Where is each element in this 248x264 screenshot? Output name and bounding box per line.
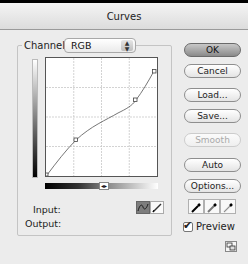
pencil-mode-button[interactable] [150, 201, 164, 214]
smooth-button[interactable]: Smooth [184, 133, 241, 147]
ok-button[interactable]: OK [184, 43, 241, 57]
curve-graph[interactable] [45, 57, 158, 177]
input-label: Input: [33, 204, 61, 215]
output-label: Output: [25, 218, 61, 229]
title-bar[interactable]: Curves [0, 3, 248, 30]
resize-icon [226, 242, 236, 251]
window-title: Curves [0, 11, 248, 22]
eyedropper-gray-icon [207, 202, 218, 213]
checkmark-icon: ✔ [183, 219, 192, 232]
curve-point [153, 70, 157, 74]
pencil-tool-icon [151, 202, 163, 213]
save-button[interactable]: Save... [184, 109, 241, 123]
channel-value: RGB [71, 40, 91, 51]
eyedropper-group [188, 199, 236, 214]
preview-label: Preview [196, 221, 235, 232]
input-gradient-bar: ◂▸ [45, 183, 158, 189]
curve-tool-icon [137, 202, 149, 213]
curve-point [46, 173, 48, 176]
gray-point-eyedropper[interactable] [204, 199, 220, 214]
expand-dialog-button[interactable] [225, 241, 237, 252]
curve-point [74, 138, 78, 142]
curve-plot [46, 58, 157, 176]
curve-mode-button[interactable] [136, 201, 150, 214]
white-point-eyedropper[interactable] [220, 199, 236, 214]
curve-point [134, 98, 138, 102]
options-button[interactable]: Options... [184, 179, 241, 193]
output-gradient-bar [32, 59, 38, 178]
black-point-eyedropper[interactable] [188, 199, 204, 214]
popup-arrows-icon: ▲▼ [121, 40, 133, 51]
gradient-direction-toggle[interactable]: ◂▸ [99, 182, 109, 190]
channel-select[interactable]: RGB ▲▼ [64, 38, 136, 53]
curves-dialog: Curves Channel: RGB ▲▼ [0, 3, 248, 264]
eyedropper-white-icon [223, 202, 234, 213]
auto-button[interactable]: Auto [184, 158, 241, 172]
eyedropper-black-icon [191, 202, 202, 213]
load-button[interactable]: Load... [184, 88, 241, 102]
cancel-button[interactable]: Cancel [184, 64, 241, 78]
